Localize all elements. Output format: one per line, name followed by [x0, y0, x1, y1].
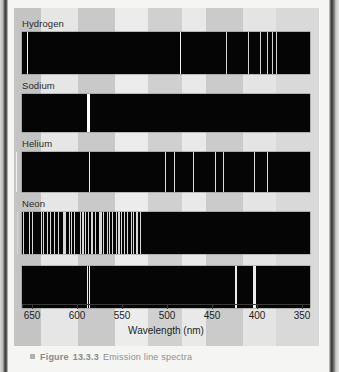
emission-line: [82, 212, 83, 254]
emission-line: [121, 212, 122, 254]
emission-line: [137, 212, 138, 254]
axis-baseline: [22, 304, 310, 305]
spectrum-band-hydrogen: [22, 32, 310, 74]
axis-tick: [302, 304, 303, 309]
axis-tick: [257, 304, 258, 309]
emission-line: [71, 212, 72, 254]
emission-line: [29, 212, 30, 254]
emission-line: [118, 212, 119, 254]
spectrum-label-helium: Helium: [22, 138, 52, 149]
axis-tick-label: 600: [69, 310, 86, 321]
emission-line: [88, 94, 90, 132]
emission-line: [109, 212, 110, 254]
caption-prefix: Figure: [40, 352, 69, 362]
axis-tick: [122, 304, 123, 309]
axis-tick-label: 500: [159, 310, 176, 321]
page-gutter-left: [0, 0, 8, 372]
emission-line: [223, 152, 224, 192]
spectra-rows: HydrogenSodiumHeliumNeon: [14, 8, 319, 346]
emission-line: [103, 212, 104, 254]
page-sheet: HydrogenSodiumHeliumNeon 650600550500450…: [8, 0, 329, 372]
emission-line: [165, 152, 166, 192]
emission-line: [254, 152, 255, 192]
emission-line: [88, 212, 89, 254]
caption-text: Emission line spectra: [103, 352, 192, 362]
spectrum-band-helium: [22, 152, 310, 192]
spectra-figure: HydrogenSodiumHeliumNeon 650600550500450…: [14, 8, 319, 346]
emission-line: [95, 212, 96, 254]
spectrum-band-unlabeled: [22, 266, 310, 308]
emission-line: [124, 212, 125, 254]
emission-line: [276, 32, 277, 74]
emission-line: [235, 266, 236, 308]
spectrum-band-neon: [22, 212, 310, 254]
emission-line: [16, 152, 17, 192]
figure-caption: Figure13.3.3Emission line spectra: [30, 352, 192, 362]
emission-line: [112, 212, 113, 254]
axis-tick-label: 550: [114, 310, 131, 321]
page-gutter-right: [329, 0, 339, 372]
emission-line: [267, 152, 268, 192]
axis-end-tick: [22, 304, 23, 308]
emission-line: [85, 212, 86, 254]
axis-title: Wavelength (nm): [22, 325, 310, 336]
emission-line: [58, 212, 59, 254]
emission-line: [27, 32, 29, 74]
spectrum-label-hydrogen: Hydrogen: [22, 18, 64, 29]
emission-line: [226, 32, 227, 74]
emission-line: [92, 212, 93, 254]
emission-line: [180, 32, 182, 74]
axis-tick-label: 350: [294, 310, 311, 321]
caption-marker-icon: [30, 354, 35, 359]
emission-line: [174, 152, 175, 192]
axis-tick: [32, 304, 33, 309]
emission-line: [47, 212, 48, 254]
spectrum-label-neon: Neon: [22, 198, 45, 209]
emission-line: [74, 212, 75, 254]
document-page: HydrogenSodiumHeliumNeon 650600550500450…: [0, 0, 339, 372]
axis-tick-label: 400: [249, 310, 266, 321]
emission-line: [23, 212, 24, 254]
emission-line: [17, 212, 18, 254]
emission-line: [127, 212, 128, 254]
spectrum-band-sodium: [22, 94, 310, 132]
axis-tick-label: 450: [204, 310, 221, 321]
emission-line: [50, 212, 51, 254]
emission-line: [100, 212, 101, 254]
caption-number: 13.3.3: [73, 352, 99, 362]
emission-line: [248, 32, 249, 74]
axis-tick-label: 650: [24, 310, 41, 321]
emission-line: [64, 212, 65, 254]
emission-line: [43, 212, 44, 254]
emission-line: [267, 32, 268, 74]
emission-line: [215, 152, 216, 192]
emission-line: [133, 212, 134, 254]
emission-line: [272, 32, 273, 74]
emission-line: [32, 212, 33, 254]
emission-line: [89, 266, 90, 308]
emission-line: [260, 32, 261, 74]
spectrum-label-sodium: Sodium: [22, 80, 55, 91]
emission-line: [116, 212, 117, 254]
axis-tick: [167, 304, 168, 309]
emission-line: [89, 152, 90, 192]
emission-line: [80, 212, 81, 254]
emission-line: [54, 212, 55, 254]
emission-line: [193, 152, 194, 192]
emission-line: [254, 266, 255, 308]
axis-tick: [77, 304, 78, 309]
emission-line: [140, 212, 141, 254]
axis-tick: [212, 304, 213, 309]
